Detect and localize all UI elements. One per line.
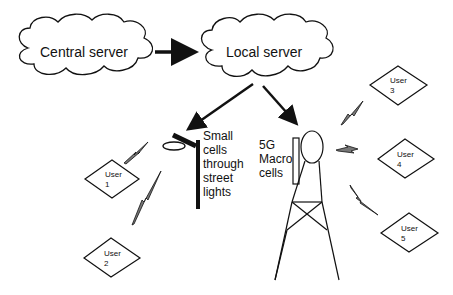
user-2-label: User 2 — [104, 249, 121, 269]
central-server-label: Central server — [40, 44, 128, 60]
macro-cells-label: 5G Macro cells — [259, 138, 292, 180]
wireless-bolt-user-5-icon — [350, 185, 378, 215]
wireless-bolt-user-3-icon — [341, 101, 363, 125]
user-4-label: User 4 — [397, 150, 414, 170]
wireless-bolt-user-1-icon — [124, 142, 148, 164]
user-1-label: User 1 — [105, 170, 122, 190]
user-5-label: User 5 — [401, 224, 418, 244]
local-server-label: Local server — [226, 44, 302, 60]
wireless-bolt-user-4-icon — [336, 145, 358, 153]
arrow-local-to-macro-cells — [263, 86, 295, 122]
arrow-local-to-small-cells — [190, 84, 253, 128]
street-light-icon — [163, 135, 200, 209]
small-cells-label: Small cells through street lights — [203, 129, 244, 199]
user-3-label: User 3 — [390, 76, 407, 96]
